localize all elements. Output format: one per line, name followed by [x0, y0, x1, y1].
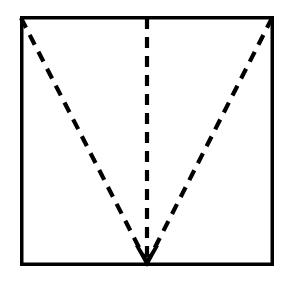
- diagram-canvas: Square with three dashed lines convergin…: [0, 0, 286, 286]
- figure-svg: Square with three dashed lines convergin…: [0, 0, 286, 286]
- canvas-background: [0, 0, 286, 286]
